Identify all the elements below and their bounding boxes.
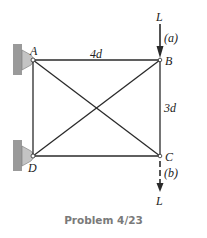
load-case-b: (b) xyxy=(164,167,178,179)
joint-label-d: D xyxy=(28,162,37,174)
truss-diagram: A B C D 4d 3d L (a) (b) L Problem 4/23 xyxy=(0,0,207,238)
load-arrow-a xyxy=(157,24,164,58)
joint-label-a: A xyxy=(30,45,37,57)
dimension-vertical: 3d xyxy=(164,102,176,114)
joint-label-b: B xyxy=(165,55,172,67)
truss-members xyxy=(33,60,160,156)
joint-a xyxy=(31,58,35,62)
load-arrow-b xyxy=(157,161,164,192)
joint-label-c: C xyxy=(165,151,173,163)
figure-caption: Problem 4/23 xyxy=(0,214,207,226)
load-label-a: L xyxy=(156,11,163,23)
dimension-horizontal: 4d xyxy=(90,48,102,60)
joint-d xyxy=(31,154,35,158)
joint-b xyxy=(158,58,162,62)
joint-c xyxy=(158,154,162,158)
load-label-b: L xyxy=(156,195,163,207)
load-case-a: (a) xyxy=(164,32,178,44)
